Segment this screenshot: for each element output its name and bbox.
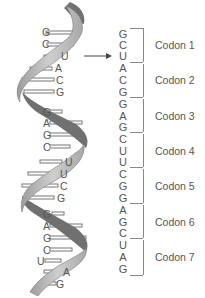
bracket-divider (130, 203, 143, 204)
sequence-base: G (117, 193, 129, 204)
bracket-divider (130, 62, 143, 63)
codon-bracket (130, 205, 144, 238)
sequence-base: G (117, 264, 129, 275)
sequence-base: G (117, 181, 129, 192)
helix-base: C (43, 142, 51, 153)
front-strand (17, 6, 86, 296)
helix-base: U (60, 169, 68, 180)
helix-base: G (43, 130, 51, 141)
sequence-base: U (117, 240, 129, 251)
helix-base: U (37, 256, 45, 267)
sequence-base: U (117, 157, 129, 168)
sequence-base: G (117, 87, 129, 98)
codon-bracket (130, 169, 144, 203)
helix-base: G (42, 27, 50, 38)
sequence-base: A (117, 63, 129, 74)
codon-bracket (130, 240, 144, 275)
codon-bracket (130, 99, 144, 132)
helix-base: G (56, 87, 64, 98)
codon-label-2: Codon 2 (155, 75, 195, 86)
arrow-right-icon (84, 51, 112, 61)
helix-base: G (56, 279, 64, 290)
helix-base: G (43, 209, 51, 220)
sequence-base: C (117, 169, 129, 180)
sequence-base: A (117, 252, 129, 263)
sequence-base: C (117, 134, 129, 145)
codon-label-4: Codon 4 (155, 146, 195, 157)
bracket-divider (130, 132, 143, 133)
helix-base: A (63, 267, 70, 278)
codon-label-7: Codon 7 (155, 252, 195, 263)
sequence-base: G (117, 99, 129, 110)
helix-base: U (65, 157, 73, 168)
helix-base: A (43, 118, 50, 129)
codon-bracket (130, 64, 144, 97)
codon-label-5: Codon 5 (155, 181, 195, 192)
bracket-divider (130, 238, 143, 239)
helix-base: A (43, 221, 50, 232)
bracket-divider (130, 97, 143, 98)
codon-label-6: Codon 6 (155, 217, 195, 228)
helix-base: C (42, 39, 50, 50)
bracket-divider (130, 167, 143, 168)
codon-label-3: Codon 3 (155, 111, 195, 122)
bracket-bottom (130, 275, 143, 276)
codon-label-1: Codon 1 (155, 40, 195, 51)
codon-bracket (130, 28, 144, 62)
helix-base: G (43, 233, 51, 244)
helix-base: G (57, 193, 65, 204)
helix-base: C (56, 75, 64, 86)
codon-bracket (130, 134, 144, 167)
sequence-base: C (117, 228, 129, 239)
sequence-base: A (117, 205, 129, 216)
helix-base: A (55, 63, 62, 74)
helix-base: U (61, 51, 69, 62)
rna-helix-ribbon (0, 0, 110, 298)
sequence-base: U (117, 51, 129, 62)
sequence-base: C (117, 75, 129, 86)
sequence-base: G (117, 122, 129, 133)
helix-base: C (60, 181, 68, 192)
